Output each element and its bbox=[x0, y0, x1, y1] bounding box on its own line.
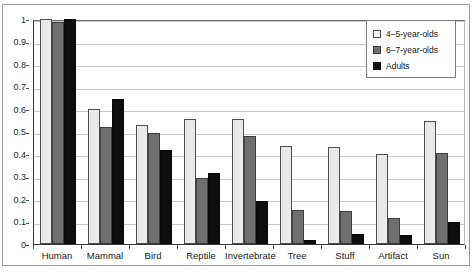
bar-invertebrate-series-2 bbox=[256, 201, 268, 244]
y-tick-label: 0.2 bbox=[0, 196, 26, 205]
x-tick-mark bbox=[177, 245, 178, 249]
bar-reptile-series-2 bbox=[208, 173, 220, 244]
bar-chart: 10.90.80.70.60.50.40.30.20.10 HumanMamma… bbox=[0, 0, 475, 272]
legend-item-1: 6–7-year-olds bbox=[373, 42, 450, 58]
x-tick-label-human: Human bbox=[33, 250, 81, 261]
bar-mammal-series-2 bbox=[112, 99, 124, 244]
y-tick-mark bbox=[26, 110, 29, 111]
bar-bird-series-1 bbox=[148, 133, 160, 244]
bar-stuff-series-2 bbox=[352, 234, 364, 244]
y-tick-mark bbox=[26, 43, 29, 44]
bar-tree-series-0 bbox=[280, 146, 292, 244]
y-tick-mark bbox=[26, 178, 29, 179]
x-axis: HumanMammalBirdReptileInvertebrateTreeSt… bbox=[33, 245, 465, 272]
y-tick-label: 0.6 bbox=[0, 106, 26, 115]
y-tick-mark bbox=[26, 200, 29, 201]
y-tick-label: 0.3 bbox=[0, 173, 26, 182]
y-tick-mark bbox=[26, 65, 29, 66]
bar-tree-series-1 bbox=[292, 210, 304, 244]
bar-stuff-series-1 bbox=[340, 211, 352, 244]
bar-artifact-series-2 bbox=[400, 235, 412, 244]
x-tick-mark bbox=[81, 245, 82, 249]
x-tick-label-reptile: Reptile bbox=[177, 250, 225, 261]
bar-reptile-series-1 bbox=[196, 178, 208, 244]
bar-artifact-series-1 bbox=[388, 218, 400, 244]
x-tick-mark bbox=[129, 245, 130, 249]
y-tick-label: 0.1 bbox=[0, 218, 26, 227]
bar-bird-series-2 bbox=[160, 150, 172, 245]
bar-stuff-series-0 bbox=[328, 147, 340, 244]
bar-human-series-1 bbox=[52, 22, 64, 244]
bar-tree-series-2 bbox=[304, 240, 316, 245]
x-tick-label-tree: Tree bbox=[273, 250, 321, 261]
x-tick-label-invertebrate: Invertebrate bbox=[225, 250, 273, 261]
legend-item-0: 4–5-year-olds bbox=[373, 26, 450, 42]
x-tick-label-mammal: Mammal bbox=[81, 250, 129, 261]
bar-invertebrate-series-1 bbox=[244, 136, 256, 244]
bar-human-series-0 bbox=[40, 19, 52, 244]
y-tick-mark bbox=[26, 88, 29, 89]
y-tick-mark bbox=[26, 20, 29, 21]
y-tick-label: 0.4 bbox=[0, 151, 26, 160]
bar-bird-series-0 bbox=[136, 125, 148, 244]
y-tick-label: 0.7 bbox=[0, 83, 26, 92]
y-tick-label: 1 bbox=[0, 16, 26, 25]
bar-reptile-series-0 bbox=[184, 119, 196, 244]
legend-label-1: 6–7-year-olds bbox=[386, 46, 438, 55]
legend-label-2: Adults bbox=[386, 62, 410, 71]
chart-legend: 4–5-year-olds 6–7-year-olds Adults bbox=[366, 20, 456, 78]
x-tick-mark bbox=[417, 245, 418, 249]
x-tick-mark bbox=[273, 245, 274, 249]
x-tick-label-artifact: Artifact bbox=[369, 250, 417, 261]
bar-sun-series-1 bbox=[436, 153, 448, 244]
x-tick-mark bbox=[369, 245, 370, 249]
x-tick-mark bbox=[465, 245, 466, 249]
legend-swatch-icon-0 bbox=[373, 30, 381, 38]
x-tick-label-sun: Sun bbox=[417, 250, 465, 261]
bar-invertebrate-series-0 bbox=[232, 119, 244, 244]
legend-label-0: 4–5-year-olds bbox=[386, 30, 438, 39]
x-tick-label-bird: Bird bbox=[129, 250, 177, 261]
bar-human-series-2 bbox=[64, 19, 76, 244]
y-tick-mark bbox=[26, 223, 29, 224]
y-tick-mark bbox=[26, 133, 29, 134]
bar-mammal-series-0 bbox=[88, 109, 100, 244]
legend-swatch-icon-1 bbox=[373, 46, 381, 54]
y-tick-mark bbox=[26, 245, 29, 246]
x-tick-mark bbox=[321, 245, 322, 249]
bar-sun-series-2 bbox=[448, 222, 460, 245]
x-tick-mark bbox=[33, 245, 34, 249]
y-tick-label: 0.9 bbox=[0, 38, 26, 47]
y-axis: 10.90.80.70.60.50.40.30.20.10 bbox=[0, 20, 29, 245]
legend-swatch-icon-2 bbox=[373, 62, 381, 70]
y-tick-label: 0.5 bbox=[0, 128, 26, 137]
bar-artifact-series-0 bbox=[376, 154, 388, 244]
legend-item-2: Adults bbox=[373, 58, 450, 74]
y-tick-label: 0 bbox=[0, 241, 26, 250]
y-tick-label: 0.8 bbox=[0, 61, 26, 70]
bar-sun-series-0 bbox=[424, 121, 436, 244]
x-tick-label-stuff: Stuff bbox=[321, 250, 369, 261]
bar-mammal-series-1 bbox=[100, 127, 112, 244]
x-tick-mark bbox=[225, 245, 226, 249]
y-tick-mark bbox=[26, 155, 29, 156]
